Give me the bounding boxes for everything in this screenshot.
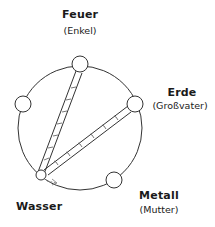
label-metall: Metall (139, 189, 179, 202)
role-metall: (Mutter) (135, 204, 183, 215)
label-wasser: Wasser (16, 200, 60, 213)
role-erde: (Großvater) (149, 100, 211, 111)
cycle-ring (18, 66, 142, 190)
role-feuer: (Enkel) (58, 25, 102, 36)
node-feuer (72, 56, 88, 72)
node-left (15, 96, 31, 112)
five-elements-diagram (0, 0, 215, 227)
node-wasser (36, 170, 46, 180)
small-arrow-icon (47, 179, 57, 185)
node-metall (106, 172, 122, 188)
label-erde: Erde (166, 86, 198, 99)
arrow-wasser-to-feuer (38, 71, 82, 174)
label-feuer: Feuer (62, 8, 98, 21)
node-erde (127, 96, 143, 112)
